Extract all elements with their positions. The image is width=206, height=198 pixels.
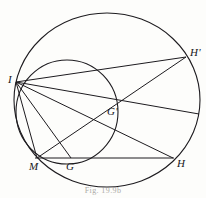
point-label-H-prime: H': [190, 47, 201, 58]
large-circumcircle: [14, 13, 200, 187]
segment-I-G: [16, 82, 71, 158]
segment-I-H: [16, 82, 173, 158]
point-label-G: G: [66, 161, 74, 172]
geometry-figure: I H' G' M G H Fig. 19.9b: [0, 0, 206, 198]
segment-I-H-prime: [16, 57, 186, 82]
point-label-G-prime: G': [107, 106, 118, 117]
point-label-M: M: [29, 161, 38, 172]
segment-I-M: [16, 82, 37, 158]
point-label-I: I: [8, 74, 12, 85]
small-circle: [16, 60, 118, 164]
figure-caption: Fig. 19.9b: [0, 186, 206, 195]
point-label-H: H: [177, 158, 185, 169]
